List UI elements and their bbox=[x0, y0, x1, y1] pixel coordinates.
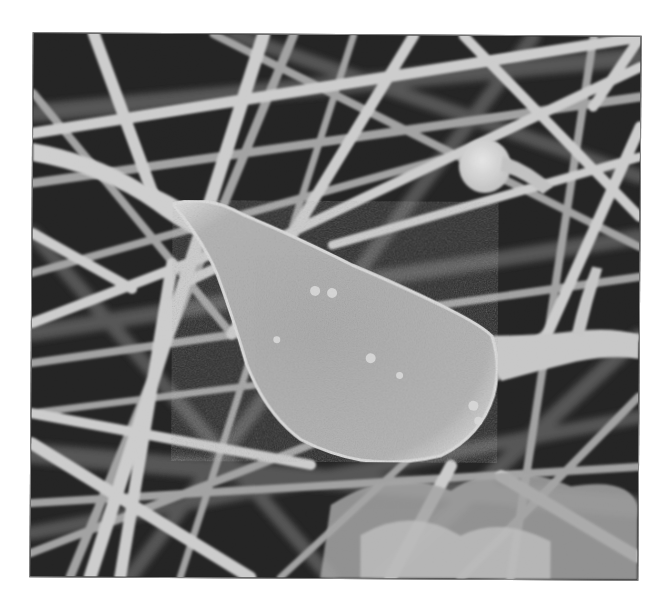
micrograph-image bbox=[30, 33, 640, 580]
grain-overlay bbox=[30, 33, 640, 580]
micrograph-frame bbox=[29, 32, 641, 581]
